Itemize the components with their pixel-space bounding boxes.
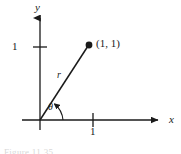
point-marker bbox=[86, 42, 93, 49]
angle-label: θ bbox=[48, 102, 53, 112]
angle-arc bbox=[55, 104, 64, 120]
y-axis-tick-label: 1 bbox=[12, 41, 18, 52]
x-axis-label: x bbox=[169, 114, 174, 125]
y-axis-label: y bbox=[35, 2, 40, 13]
polar-coordinate-figure: y x 1 1 r θ (1, 1) Figure 11.35 bbox=[0, 0, 181, 154]
radius-label: r bbox=[57, 70, 61, 80]
point-coordinate-label: (1, 1) bbox=[96, 38, 120, 49]
x-axis-tick-label: 1 bbox=[90, 126, 96, 137]
figure-caption: Figure 11.35 bbox=[4, 147, 53, 154]
